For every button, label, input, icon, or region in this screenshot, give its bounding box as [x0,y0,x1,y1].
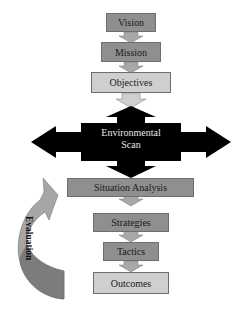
scan-label-line2: Scan [81,139,181,151]
step-vision: Vision [106,13,156,32]
step-situation-analysis: Situation Analysis [67,178,194,197]
connector-arrow-icon [119,261,143,272]
connector-arrow-icon [116,93,146,108]
step-mission: Mission [101,42,161,62]
evaluation-label: Evaluation [22,216,34,286]
step-label: Situation Analysis [94,182,167,193]
step-strategies: Strategies [93,213,169,232]
step-label: Strategies [111,217,150,228]
step-label: Mission [115,47,147,58]
scan-label-line1: Environmental [81,127,181,139]
step-label: Objectives [110,77,153,88]
step-label: Tactics [117,246,145,257]
step-label: Vision [118,17,144,28]
step-outcomes: Outcomes [93,272,169,294]
environmental-scan-label: Environmental Scan [81,127,181,151]
step-label: Outcomes [111,278,152,289]
step-tactics: Tactics [103,242,159,261]
connector-arrow-icon [119,231,143,242]
step-objectives: Objectives [91,72,171,93]
